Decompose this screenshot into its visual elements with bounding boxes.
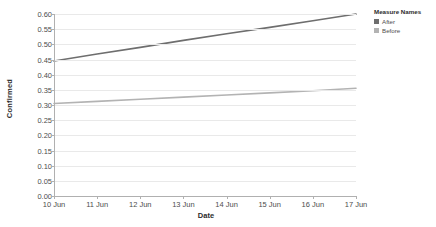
y-axis-tick-mark [51, 166, 54, 167]
x-axis-tick-label: 15 Jun [258, 200, 281, 209]
gridline [54, 44, 356, 45]
x-axis-title: Date [0, 211, 412, 220]
y-axis-line [54, 14, 55, 197]
y-axis-tick-labels: 0.000.050.100.150.200.250.300.350.400.45… [8, 0, 52, 227]
y-axis-tick-label: 0.55 [10, 25, 52, 34]
y-axis-tick-mark [51, 151, 54, 152]
y-axis-tick-mark [51, 14, 54, 15]
legend-item-label: After [382, 18, 395, 25]
y-axis-tick-mark [51, 135, 54, 136]
y-axis-tick-mark [51, 120, 54, 121]
y-axis-tick-label: 0.60 [10, 10, 52, 19]
plot-area [54, 14, 356, 196]
legend-swatch-icon [374, 28, 379, 33]
gridline [54, 181, 356, 182]
y-axis-tick-mark [51, 181, 54, 182]
x-axis-tick-mark [270, 196, 271, 199]
x-axis-tick-label: 14 Jun [215, 200, 238, 209]
x-axis-tick-mark [54, 196, 55, 199]
gridline [54, 151, 356, 152]
gridline [54, 120, 356, 121]
y-axis-tick-label: 0.15 [10, 146, 52, 155]
x-axis-tick-mark [356, 196, 357, 199]
x-axis-line [54, 196, 357, 197]
legend: Measure Names AfterBefore [374, 8, 432, 36]
gridline [54, 29, 356, 30]
legend-item-before[interactable]: Before [374, 27, 432, 34]
y-axis-tick-label: 0.35 [10, 85, 52, 94]
x-axis-tick-mark [227, 196, 228, 199]
y-axis-tick-label: 0.30 [10, 101, 52, 110]
x-axis-tick-mark [313, 196, 314, 199]
gridline [54, 14, 356, 15]
gridline [54, 60, 356, 61]
y-axis-tick-mark [51, 90, 54, 91]
y-axis-tick-mark [51, 75, 54, 76]
y-axis-tick-label: 0.45 [10, 55, 52, 64]
y-axis-tick-label: 0.40 [10, 70, 52, 79]
y-axis-tick-label: 0.10 [10, 161, 52, 170]
y-axis-tick-mark [51, 44, 54, 45]
legend-item-label: Before [382, 27, 400, 34]
series-line-after [54, 14, 356, 61]
gridline [54, 135, 356, 136]
gridline [54, 90, 356, 91]
y-axis-tick-mark [51, 29, 54, 30]
x-axis-tick-label: 17 Jun [345, 200, 368, 209]
x-axis-tick-label: 11 Jun [86, 200, 108, 209]
gridline [54, 166, 356, 167]
legend-swatch-icon [374, 19, 379, 24]
y-axis-tick-label: 0.05 [10, 176, 52, 185]
y-axis-tick-label: 0.50 [10, 40, 52, 49]
legend-title: Measure Names [374, 8, 432, 15]
x-axis-tick-mark [140, 196, 141, 199]
x-axis-tick-mark [183, 196, 184, 199]
legend-item-after[interactable]: After [374, 18, 432, 25]
legend-items: AfterBefore [374, 18, 432, 34]
x-axis-tick-label: 12 Jun [129, 200, 152, 209]
x-axis-tick-label: 10 Jun [43, 200, 66, 209]
y-axis-tick-mark [51, 105, 54, 106]
y-axis-tick-mark [51, 60, 54, 61]
line-chart: Confirmed 0.000.050.100.150.200.250.300.… [0, 0, 436, 227]
y-axis-tick-label: 0.20 [10, 131, 52, 140]
y-axis-tick-label: 0.25 [10, 116, 52, 125]
gridline [54, 75, 356, 76]
x-axis-tick-label: 16 Jun [302, 200, 325, 209]
x-axis-tick-mark [97, 196, 98, 199]
x-axis-tick-label: 13 Jun [172, 200, 195, 209]
gridline [54, 105, 356, 106]
